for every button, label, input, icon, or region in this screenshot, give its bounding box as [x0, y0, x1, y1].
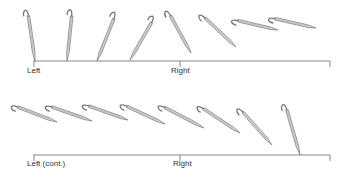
hook-head-curl — [282, 105, 287, 111]
hook-shaft-highlight — [205, 18, 230, 41]
hook-shaft — [51, 106, 92, 121]
hook-head-curl — [23, 10, 28, 16]
axis-label-left: Left — [27, 66, 40, 75]
row-bottom — [11, 105, 330, 161]
crochet-hook-icon — [237, 109, 272, 145]
crochet-hook-icon — [268, 17, 316, 28]
crochet-hook-icon — [197, 107, 240, 133]
hook-shaft — [27, 16, 35, 61]
crochet-hook-icon — [199, 15, 236, 47]
hook-shaft-highlight — [203, 109, 232, 129]
hook-shaft — [275, 17, 316, 28]
hook-shaft-highlight — [127, 106, 158, 120]
hook-shaft — [238, 19, 278, 30]
hook-head-curl — [82, 105, 89, 110]
diagram-canvas — [0, 0, 345, 181]
hook-shaft-highlight — [170, 16, 187, 46]
axis-label-left: Left (cont.) — [27, 159, 65, 168]
hook-head-curl — [197, 107, 203, 113]
hook-shaft-highlight — [238, 21, 270, 29]
hook-shaft — [67, 16, 73, 61]
hook-head-curl — [231, 20, 238, 25]
axis-label-right: Right — [173, 159, 192, 168]
crochet-hook-icon — [45, 106, 92, 121]
crochet-hook-icon — [82, 105, 128, 120]
hook-shaft-highlight — [52, 107, 84, 118]
crochet-hook-icon — [11, 106, 57, 122]
hook-shaft-highlight — [89, 106, 121, 117]
hook-shaft-highlight — [165, 107, 197, 124]
hook-shaft-highlight — [287, 110, 298, 146]
crochet-hook-sequence-diagram: LeftRightLeft (cont.)Right — [0, 0, 345, 181]
hook-shaft — [97, 18, 115, 61]
hook-head-curl — [11, 106, 18, 111]
hook-shaft — [17, 106, 57, 122]
hook-head-curl — [148, 16, 153, 23]
hook-shaft — [169, 15, 191, 53]
hook-shaft-highlight — [18, 107, 50, 119]
hook-head-curl — [110, 12, 115, 19]
crochet-hook-icon — [165, 11, 191, 53]
hook-head-curl — [199, 15, 205, 21]
hook-shaft-highlight — [275, 19, 308, 27]
hook-head-curl — [120, 105, 127, 110]
hook-shaft — [203, 108, 240, 133]
hook-head-curl — [268, 18, 275, 23]
hook-head-curl — [237, 109, 243, 115]
hook-shaft — [286, 110, 300, 155]
hook-head-curl — [158, 106, 165, 111]
hook-shaft-highlight — [243, 112, 266, 138]
row-top — [23, 10, 330, 67]
hook-head-curl — [45, 106, 52, 111]
crochet-hook-icon — [67, 10, 73, 61]
hook-shaft — [130, 22, 153, 60]
hook-shaft-highlight — [134, 23, 151, 53]
crochet-hook-icon — [23, 10, 35, 61]
hook-shaft-highlight — [100, 19, 114, 53]
crochet-hook-icon — [130, 16, 153, 60]
axis-label-right: Right — [171, 66, 190, 75]
crochet-hook-icon — [231, 19, 278, 30]
hook-shaft-highlight — [28, 16, 33, 52]
hook-head-curl — [67, 10, 72, 16]
hook-shaft — [88, 105, 128, 120]
hook-shaft — [126, 105, 165, 124]
crochet-hook-icon — [282, 105, 300, 155]
crochet-hook-icon — [97, 12, 115, 61]
